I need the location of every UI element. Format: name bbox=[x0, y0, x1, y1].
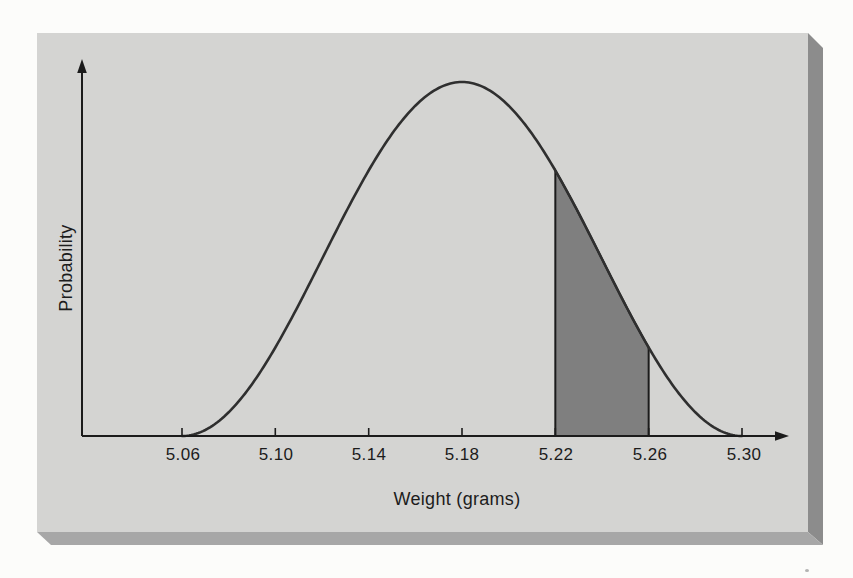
x-tick-label-5.18: 5.18 bbox=[445, 445, 479, 465]
figure-stage: Probability 5.06 5.10 5.14 5.18 5.22 5.2… bbox=[0, 0, 853, 578]
x-tick-label-5.30: 5.30 bbox=[727, 445, 761, 465]
x-tick-label-5.06: 5.06 bbox=[166, 445, 200, 465]
x-tick-label-5.14: 5.14 bbox=[352, 445, 386, 465]
x-axis-label: Weight (grams) bbox=[394, 489, 521, 510]
panel-bottom-edge-shadow bbox=[37, 532, 823, 545]
figure-panel bbox=[37, 33, 808, 532]
scan-dust-speck bbox=[805, 569, 809, 572]
x-tick-label-5.26: 5.26 bbox=[633, 445, 667, 465]
x-tick-label-5.10: 5.10 bbox=[259, 445, 293, 465]
x-tick-label-5.22: 5.22 bbox=[539, 445, 573, 465]
y-axis-label: Probability bbox=[56, 224, 77, 311]
panel-right-edge-shadow bbox=[808, 33, 823, 545]
